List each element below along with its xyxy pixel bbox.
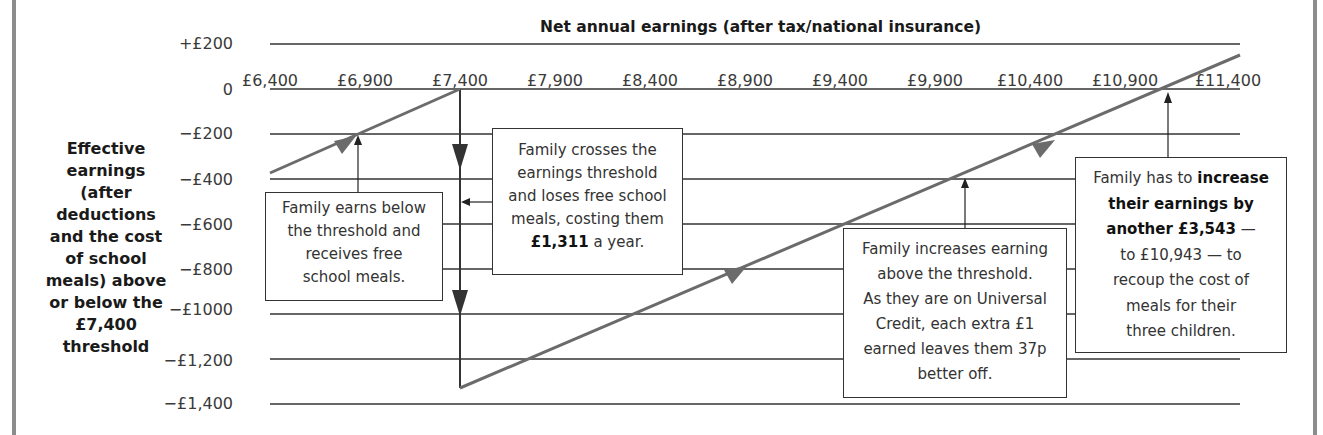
left-arrow-icon <box>461 198 470 206</box>
annotation-line: earnings threshold <box>493 162 682 185</box>
chart-title: Net annual earnings (after tax/national … <box>540 18 981 36</box>
annotation-bold: another £3,543 <box>1106 220 1236 238</box>
cost-amount: £1,311 <box>531 233 589 251</box>
y-tick-label: −£1,400 <box>153 394 233 413</box>
y-tick-label: −£1000 <box>153 300 233 319</box>
annotation-line: £1,311 a year. <box>493 231 682 254</box>
y-tick-label: −£400 <box>153 170 233 189</box>
annotation-line: above the threshold. <box>844 262 1066 287</box>
annotation-bold: their earnings by <box>1108 195 1253 213</box>
y-tick-label: 0 <box>153 80 233 99</box>
right-arrow-icon <box>334 136 356 154</box>
annotation-text: a year. <box>589 233 645 251</box>
annotation-line: Credit, each extra £1 <box>844 312 1066 337</box>
x-tick-label: £7,400 <box>432 71 488 90</box>
annotation-below-threshold: Family earns below the threshold and rec… <box>265 192 443 301</box>
up-arrow-icon <box>1164 92 1172 103</box>
y-tick-label: +£200 <box>153 34 233 53</box>
y-tick-label: −£800 <box>153 260 233 279</box>
annotation-line: to £10,943 — to <box>1076 243 1286 269</box>
annotation-line: Family increases earning <box>844 237 1066 262</box>
x-tick-label: £7,900 <box>527 71 583 90</box>
y-tick-label: −£1,200 <box>153 351 233 370</box>
annotation-line: receives free <box>266 243 442 266</box>
down-arrow-icon <box>452 290 468 316</box>
annotation-text: Family has to <box>1093 169 1197 187</box>
annotation-line: and loses free school <box>493 185 682 208</box>
annotation-line: recoup the cost of <box>1076 268 1286 294</box>
annotation-line: meals, costing them <box>493 208 682 231</box>
down-arrow-icon <box>452 144 468 170</box>
x-tick-label: £6,900 <box>337 71 393 90</box>
x-tick-label: £6,400 <box>242 71 298 90</box>
annotation-line: another £3,543 — <box>1076 217 1286 243</box>
x-tick-label: £8,900 <box>717 71 773 90</box>
annotation-bold: increase <box>1197 169 1269 187</box>
annotation-crosses-threshold: Family crosses the earnings threshold an… <box>492 128 683 275</box>
annotation-line: meals for their <box>1076 294 1286 320</box>
annotation-line: Family earns below <box>266 197 442 220</box>
series-line-below <box>270 89 460 173</box>
annotation-line: Family has to increase <box>1076 166 1286 192</box>
y-tick-label: −£200 <box>153 124 233 143</box>
annotation-line: earned leaves them 37p <box>844 337 1066 362</box>
annotation-line: three children. <box>1076 319 1286 345</box>
annotation-line: better off. <box>844 362 1066 387</box>
annotation-line: their earnings by <box>1076 192 1286 218</box>
annotation-line: the threshold and <box>266 220 442 243</box>
annotation-line: As they are on Universal <box>844 287 1066 312</box>
x-tick-label: £9,900 <box>907 71 963 90</box>
x-tick-label: £9,400 <box>812 71 868 90</box>
annotation-increases-earnings: Family increases earning above the thres… <box>843 228 1067 398</box>
x-tick-label: £10,400 <box>997 71 1063 90</box>
x-tick-label: £8,400 <box>622 71 678 90</box>
y-tick-label: −£600 <box>153 215 233 234</box>
x-tick-label: £10,900 <box>1092 71 1158 90</box>
annotation-line: school meals. <box>266 266 442 289</box>
annotation-line: Family crosses the <box>493 139 682 162</box>
x-tick-label: £11,400 <box>1195 71 1261 90</box>
annotation-text: — <box>1236 220 1256 238</box>
annotation-recoup-cost: Family has to increase their earnings by… <box>1075 157 1287 353</box>
